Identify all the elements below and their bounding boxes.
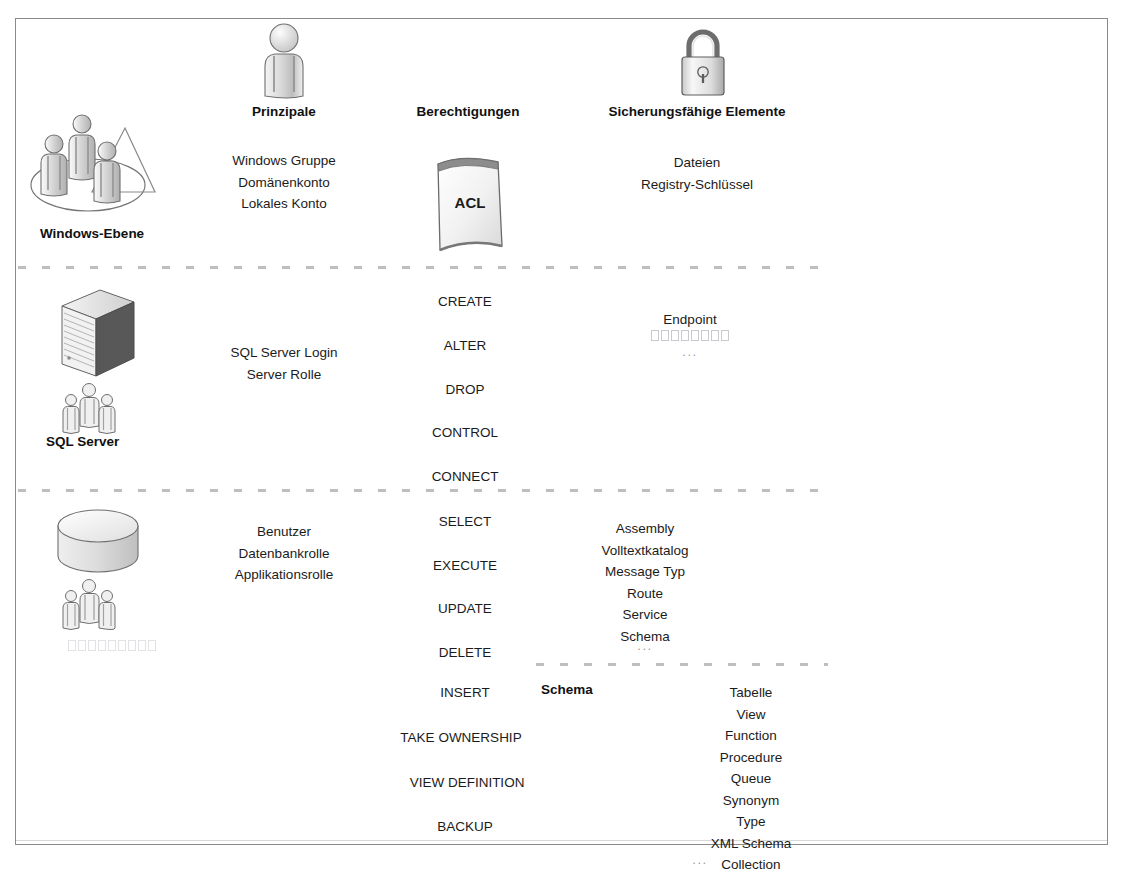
list-item: Datenbankrolle (235, 543, 333, 565)
permission-insert: INSERT (440, 682, 489, 704)
ellipsis-sqlserver-securables: ... (682, 344, 697, 359)
unreadable-glyph-run-endpoint (651, 330, 729, 341)
person-icon (249, 22, 319, 100)
padlock-icon (672, 24, 734, 100)
ellipsis-schema-securables: ... (692, 852, 707, 867)
list-item: Domänenkonto (232, 172, 336, 194)
permission-update: UPDATE (438, 598, 492, 620)
list-item: Message Typ (601, 561, 688, 583)
windows-securables-list: Dateien Registry-Schlüssel (641, 152, 753, 195)
list-item: Server Rolle (231, 364, 338, 386)
list-item: Procedure (711, 747, 792, 769)
database-principals-list: Benutzer Datenbankrolle Applikationsroll… (235, 521, 333, 586)
separator-sqlserver-database (16, 487, 829, 494)
layer-name-windows: Windows-Ebene (40, 226, 144, 241)
list-item: Service (601, 604, 688, 626)
permission-alter: ALTER (444, 335, 487, 357)
list-item: SQL Server Login (231, 342, 338, 364)
permission-create: CREATE (438, 291, 492, 313)
layer-name-schema: Schema (541, 682, 593, 697)
list-item: Type (711, 811, 792, 833)
list-item: Function (711, 725, 792, 747)
database-securables-list: Assembly Volltextkatalog Message Typ Rou… (601, 518, 688, 647)
permission-drop: DROP (445, 379, 484, 401)
list-item: Synonym (711, 790, 792, 812)
list-item: Dateien (641, 152, 753, 174)
list-item: Registry-Schlüssel (641, 174, 753, 196)
database-cylinder-icon (52, 508, 144, 578)
bottom-faint-rule (16, 840, 1107, 841)
separator-database-schema (534, 661, 828, 668)
column-header-permissions: Berechtigungen (417, 104, 520, 119)
permission-backup: BACKUP (437, 816, 493, 838)
list-item: Tabelle (711, 682, 792, 704)
permission-view-definition: VIEW DEFINITION (410, 772, 525, 794)
windows-users-group-icon (28, 106, 158, 224)
sqlserver-principals-list: SQL Server Login Server Rolle (231, 342, 338, 385)
permission-select: SELECT (439, 511, 492, 533)
separator-windows-sqlserver (16, 264, 829, 271)
list-item: Applikationsrolle (235, 564, 333, 586)
column-header-principals: Prinzipale (252, 104, 316, 119)
permission-take-ownership: TAKE OWNERSHIP (400, 727, 521, 749)
permission-delete: DELETE (439, 642, 492, 664)
column-header-securables: Sicherungsfähige Elemente (608, 104, 785, 119)
list-item: Collection (711, 854, 792, 876)
list-item: Benutzer (235, 521, 333, 543)
list-item: Windows Gruppe (232, 150, 336, 172)
permission-control: CONTROL (432, 422, 498, 444)
windows-principals-list: Windows Gruppe Domänenkonto Lokales Kont… (232, 150, 336, 215)
securable-endpoint: Endpoint (663, 309, 716, 331)
list-item: Volltextkatalog (601, 540, 688, 562)
people-group-icon (58, 578, 134, 634)
schema-securables-list: Tabelle View Function Procedure Queue Sy… (711, 682, 792, 876)
unreadable-glyph-run-database-layer (68, 640, 156, 651)
list-item: Route (601, 583, 688, 605)
permission-connect: CONNECT (432, 466, 499, 488)
people-group-icon (58, 382, 134, 438)
acl-label: ACL (455, 194, 486, 211)
acl-document-icon: ACL (428, 150, 514, 256)
list-item: Assembly (601, 518, 688, 540)
list-item: Lokales Konto (232, 193, 336, 215)
list-item: View (711, 704, 792, 726)
diagram-frame (15, 18, 1108, 845)
list-item: XML Schema (711, 833, 792, 855)
list-item: Queue (711, 768, 792, 790)
diagram-canvas: Prinzipale Berechtigungen Sicherungsfähi… (0, 0, 1127, 882)
layer-name-sqlserver: SQL Server (46, 434, 119, 449)
ellipsis-database-securables: ... (637, 638, 652, 653)
server-tower-icon (56, 286, 140, 380)
permission-execute: EXECUTE (433, 555, 497, 577)
